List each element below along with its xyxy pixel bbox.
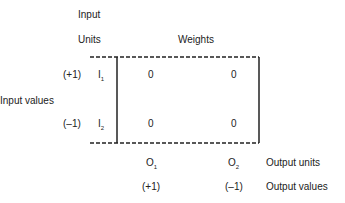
input-label-line2: Units [78, 34, 101, 46]
weight-1-2: 0 [231, 69, 237, 81]
input-value-1: (+1) [63, 69, 81, 81]
weight-2-2: 0 [231, 118, 237, 130]
weight-1-1: 0 [148, 69, 154, 81]
output-unit-1: O1 [146, 157, 157, 170]
input-value-2: (–1) [63, 118, 81, 130]
input-unit-1: I1 [98, 69, 104, 82]
output-value-1: (+1) [142, 181, 160, 193]
input-unit-2: I2 [98, 118, 104, 131]
input-values-label: Input values [0, 95, 54, 107]
input-label-line1: Input [78, 9, 100, 21]
output-units-label: Output units [266, 157, 320, 169]
weights-label: Weights [178, 34, 214, 46]
weight-2-1: 0 [148, 118, 154, 130]
output-value-2: (–1) [225, 181, 243, 193]
output-unit-2: O2 [228, 157, 239, 170]
output-values-label: Output values [266, 181, 328, 193]
